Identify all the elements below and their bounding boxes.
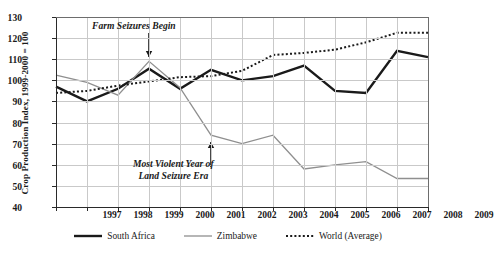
gridline-vertical (273, 17, 274, 207)
chart-legend: South Africa Zimbabwe World (Average) (0, 231, 456, 241)
x-axis-tick-mark (366, 207, 367, 211)
legend-swatch-south-africa (74, 232, 102, 240)
x-axis-tick-mark (211, 207, 212, 211)
y-axis-tick-mark (52, 144, 56, 145)
annotation-farm-seizures-text: Farm Seizures Begin (92, 20, 176, 31)
legend-swatch-zimbabwe (184, 232, 212, 240)
x-axis-tick-mark (304, 207, 305, 211)
y-axis-tick-mark (52, 59, 56, 60)
x-axis-tick-mark (335, 207, 336, 211)
gridline-vertical (397, 17, 398, 207)
y-axis-line (56, 17, 57, 207)
x-axis-tick-mark (56, 207, 57, 211)
y-axis-tick-label: 100 (0, 75, 22, 86)
y-axis-tick-label: 120 (0, 33, 22, 44)
legend-item-zimbabwe: Zimbabwe (184, 231, 257, 241)
y-axis-tick-mark (52, 80, 56, 81)
x-axis-tick-mark (180, 207, 181, 211)
y-axis-tick-mark (52, 38, 56, 39)
y-axis-tick-mark (52, 165, 56, 166)
x-axis-tick-label: 2009 (464, 209, 498, 220)
y-axis-tick-mark (52, 186, 56, 187)
x-axis-tick-mark (428, 207, 429, 211)
x-axis-tick-mark (118, 207, 119, 211)
legend-swatch-world-average (286, 232, 314, 240)
gridline-vertical (118, 17, 119, 207)
annotation-most-violent-line1: Most Violent Year of (133, 158, 214, 169)
x-axis-tick-mark (87, 207, 88, 211)
legend-item-south-africa: South Africa (74, 231, 155, 241)
y-axis-tick-label: 90 (0, 96, 22, 107)
gridline-vertical (335, 17, 336, 207)
gridline-vertical (366, 17, 367, 207)
y-axis-tick-label: 130 (0, 12, 22, 23)
y-axis-tick-label: 80 (0, 117, 22, 128)
plot-area: 1997199819992000200120022003200420052006… (56, 17, 428, 207)
gridline-vertical (304, 17, 305, 207)
y-axis-tick-label: 50 (0, 180, 22, 191)
gridline-vertical (87, 17, 88, 207)
y-axis-tick-label: 60 (0, 159, 22, 170)
y-axis-tick-label: 70 (0, 138, 22, 149)
legend-label-zimbabwe: Zimbabwe (217, 231, 257, 241)
annotation-farm-seizures: Farm Seizures Begin (92, 20, 176, 32)
annotation-most-violent-year: Most Violent Year of Land Seizure Era (133, 158, 214, 181)
legend-label-south-africa: South Africa (107, 231, 155, 241)
y-axis-tick-mark (52, 17, 56, 18)
legend-item-world-average: World (Average) (286, 231, 382, 241)
plot-border-top (56, 17, 428, 18)
x-axis-tick-mark (397, 207, 398, 211)
annotation-most-violent-line2: Land Seizure Era (138, 170, 208, 181)
x-axis-tick-mark (273, 207, 274, 211)
y-axis-tick-mark (52, 123, 56, 124)
y-axis-tick-label: 40 (0, 202, 22, 213)
x-axis-tick-mark (242, 207, 243, 211)
plot-border-right (428, 17, 429, 207)
legend-label-world-average: World (Average) (319, 231, 382, 241)
y-axis-tick-mark (52, 101, 56, 102)
x-axis-tick-mark (149, 207, 150, 211)
y-axis-tick-label: 110 (0, 54, 22, 65)
gridline-vertical (242, 17, 243, 207)
